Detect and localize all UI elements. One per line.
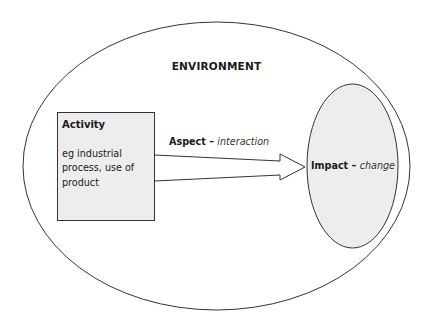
aspect-qualifier: interaction <box>217 136 269 147</box>
aspect-label: Aspect – interaction <box>169 136 269 147</box>
environment-diagram: ENVIRONMENT Activity eg industrial proce… <box>0 0 430 334</box>
aspect-term: Aspect <box>169 136 206 147</box>
aspect-separator: – <box>206 136 217 147</box>
impact-qualifier: change <box>360 160 395 171</box>
activity-description: eg industrial process, use of product <box>62 147 154 190</box>
aspect-arrow <box>155 154 306 181</box>
impact-term: Impact <box>311 160 348 171</box>
activity-title: Activity <box>62 119 105 130</box>
environment-label: ENVIRONMENT <box>0 60 430 72</box>
impact-label: Impact – change <box>311 160 395 171</box>
impact-separator: – <box>348 160 359 171</box>
